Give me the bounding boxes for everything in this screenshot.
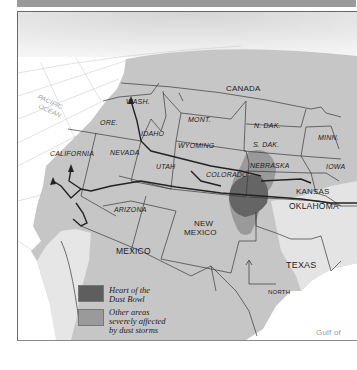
legend-heart-line2: Dust Bowl — [109, 295, 145, 303]
label-new-mexico-2: MEXICO — [184, 228, 217, 237]
label-minn: MINN. — [318, 134, 339, 141]
label-mont: MONT. — [188, 116, 211, 123]
label-texas: TEXAS — [286, 260, 317, 270]
label-mexico: MEXICO — [116, 246, 151, 256]
label-iowa: IOWA — [326, 163, 345, 170]
label-gulf-2: Mexico — [316, 338, 343, 341]
legend-wind-line1: Areas of — [109, 340, 137, 341]
label-ore: ORE. — [100, 119, 118, 126]
label-nebraska: NEBRASKA — [250, 162, 290, 169]
legend-severe-line1: Other areas — [109, 308, 150, 316]
legend-swatch-heart — [78, 285, 104, 302]
label-wyoming: WYOMING — [178, 142, 214, 149]
label-utah: UTAH — [156, 163, 175, 170]
legend-severe-line2: severely affected — [109, 317, 166, 325]
legend-swatch-severe — [78, 309, 104, 326]
label-oklahoma: OKLAHOMA — [289, 201, 339, 211]
legend-heart-line1: Heart of the — [109, 286, 150, 294]
label-s-dak: S. DAK. — [253, 141, 279, 148]
dust-bowl-map: CANADA PACIFIC OCEAN WASH. ORE. IDAHO MO… — [17, 11, 357, 341]
top-strip — [17, 0, 356, 7]
sky-area — [18, 12, 357, 57]
label-nevada: NEVADA — [110, 149, 140, 156]
legend-route-line1: Major migration routes — [207, 340, 287, 341]
legend-severe-line3: by dust storms — [109, 326, 158, 334]
label-idaho: IDAHO — [141, 130, 164, 137]
label-north: NORTH — [268, 289, 290, 295]
label-california: CALIFORNIA — [50, 150, 94, 157]
label-wash: WASH. — [126, 98, 150, 105]
label-canada: CANADA — [226, 84, 261, 93]
label-kansas: KANSAS — [296, 187, 330, 196]
label-new-mexico-1: NEW — [194, 219, 213, 228]
map-canvas — [18, 12, 357, 340]
legend-route-swatch — [176, 340, 204, 341]
label-colorado: COLORADO — [206, 171, 248, 178]
label-gulf-1: Gulf of — [316, 328, 341, 338]
label-arizona: ARIZONA — [114, 206, 147, 213]
label-n-dak: N. DAK. — [254, 122, 281, 129]
